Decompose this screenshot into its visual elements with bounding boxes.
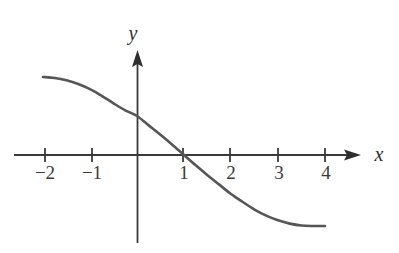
function-curve bbox=[43, 77, 325, 226]
x-tick-label-4: 4 bbox=[321, 162, 331, 184]
y-axis-label: y bbox=[129, 22, 138, 45]
x-tick-label-neg1: −1 bbox=[82, 162, 102, 184]
graph-figure: y x −2 −1 1 2 3 4 bbox=[0, 0, 399, 253]
x-tick-label-neg2: −2 bbox=[35, 162, 55, 184]
plot-canvas bbox=[0, 0, 399, 253]
x-tick-label-2: 2 bbox=[226, 162, 236, 184]
x-axis-label: x bbox=[375, 143, 384, 166]
x-tick-label-1: 1 bbox=[179, 162, 189, 184]
x-tick-label-3: 3 bbox=[274, 162, 284, 184]
